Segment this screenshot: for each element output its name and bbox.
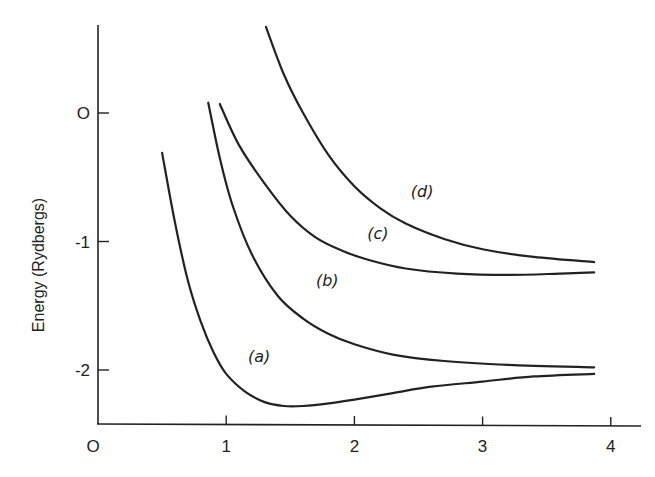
curve-label-b: (b)	[316, 271, 339, 290]
curves	[162, 27, 594, 406]
x-tick-label: 2	[350, 437, 359, 456]
curve-label-d: (d)	[411, 182, 434, 201]
x-tick-label: 4	[606, 437, 615, 456]
curve-b	[208, 103, 594, 368]
curve-label-c: (c)	[367, 224, 388, 243]
curve-label-a: (a)	[248, 347, 270, 366]
x-tick-label: O	[86, 437, 99, 456]
axes: O-1-2O1234	[75, 25, 641, 456]
y-tick-label: O	[77, 104, 90, 123]
x-tick-label: 3	[478, 437, 487, 456]
y-axis-title: Energy (Rydbergs)	[30, 198, 47, 332]
x-tick-label: 1	[221, 437, 230, 456]
energy-chart: O-1-2O1234 (a)(b)(c)(d) Energy (Rydbergs…	[0, 0, 655, 477]
curve-c	[220, 104, 594, 275]
x-axis-line	[97, 424, 641, 426]
y-tick-label: -2	[75, 361, 90, 380]
curve-a	[162, 153, 594, 407]
y-tick-label: -1	[75, 233, 90, 252]
curve-d	[266, 27, 594, 262]
